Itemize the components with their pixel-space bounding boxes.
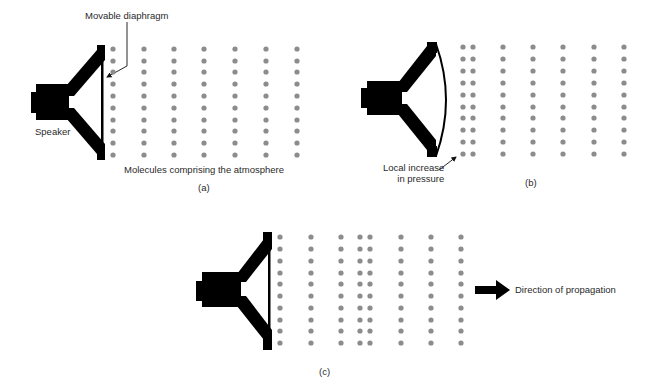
molecule-dot: [338, 234, 343, 239]
molecule-dot: [500, 115, 505, 120]
molecule-dot: [110, 140, 115, 145]
molecule-dot: [458, 281, 463, 286]
molecule-dot: [560, 151, 565, 156]
molecule-dot: [141, 46, 146, 51]
molecule-dot: [458, 234, 463, 239]
molecule-dot: [308, 234, 313, 239]
molecule-dot: [171, 152, 176, 157]
molecule-dot: [171, 69, 176, 74]
molecule-dot: [294, 69, 299, 74]
molecule-dot: [398, 246, 403, 251]
molecule-dot: [277, 258, 282, 263]
molecule-dot: [141, 105, 146, 110]
molecule-dot: [367, 258, 372, 263]
molecule-dot: [110, 152, 115, 157]
molecule-dot: [560, 104, 565, 109]
molecule-dot: [428, 328, 433, 333]
molecule-dot: [277, 234, 282, 239]
molecule-dot: [460, 127, 465, 132]
propagation-arrow-icon: [475, 280, 510, 300]
molecule-dot: [470, 80, 475, 85]
molecule-dot: [591, 151, 596, 156]
molecule-dot: [428, 305, 433, 310]
label-local-increase-line2: in pressure: [383, 173, 444, 184]
molecule-dot: [171, 46, 176, 51]
molecule-dot: [294, 117, 299, 122]
molecule-dot: [141, 140, 146, 145]
molecule-dot: [294, 81, 299, 86]
molecule-dot: [591, 80, 596, 85]
label-molecules: Molecules comprising the atmosphere: [124, 164, 284, 175]
molecule-dot: [367, 340, 372, 345]
molecule-dot: [141, 81, 146, 86]
molecule-dot: [171, 93, 176, 98]
molecule-dot: [621, 80, 626, 85]
molecule-dot: [428, 270, 433, 275]
molecule-dot: [530, 92, 535, 97]
molecule-dot: [398, 340, 403, 345]
molecule-dot: [398, 317, 403, 322]
molecule-dot: [338, 293, 343, 298]
molecule-dot: [294, 128, 299, 133]
molecule-dot: [530, 56, 535, 61]
molecule-dot: [591, 56, 596, 61]
molecule-dot: [232, 58, 237, 63]
molecule-dot: [560, 56, 565, 61]
molecule-dot: [263, 105, 268, 110]
molecule-dot: [232, 81, 237, 86]
molecule-dot: [357, 258, 362, 263]
molecule-dot: [263, 81, 268, 86]
label-local-increase: Local increase in pressure: [383, 162, 444, 184]
molecule-dot: [500, 44, 505, 49]
molecule-dot: [232, 117, 237, 122]
molecule-dot: [470, 151, 475, 156]
molecule-dot: [500, 127, 505, 132]
molecule-dot: [141, 128, 146, 133]
molecule-dot: [201, 117, 206, 122]
molecule-grid-c: [277, 234, 463, 345]
speaker-c-icon: [196, 232, 272, 350]
label-movable-diaphragm: Movable diaphragm: [85, 10, 168, 21]
molecule-dot: [201, 69, 206, 74]
molecule-dot: [398, 270, 403, 275]
molecule-dot: [277, 305, 282, 310]
molecule-dot: [560, 115, 565, 120]
molecule-dot: [621, 44, 626, 49]
molecule-dot: [141, 69, 146, 74]
molecule-dot: [277, 317, 282, 322]
molecule-dot: [110, 93, 115, 98]
molecule-dot: [308, 293, 313, 298]
molecule-dot: [560, 139, 565, 144]
molecule-dot: [357, 270, 362, 275]
molecule-dot: [530, 68, 535, 73]
molecule-dot: [263, 93, 268, 98]
molecule-dot: [470, 127, 475, 132]
molecule-dot: [232, 152, 237, 157]
molecule-dot: [110, 81, 115, 86]
caption-b: (b): [525, 177, 537, 188]
molecule-dot: [428, 317, 433, 322]
molecule-dot: [357, 328, 362, 333]
molecule-dot: [398, 258, 403, 263]
molecule-dot: [357, 246, 362, 251]
molecule-dot: [110, 58, 115, 63]
molecule-dot: [428, 234, 433, 239]
molecule-dot: [591, 68, 596, 73]
molecule-dot: [560, 80, 565, 85]
molecule-dot: [591, 44, 596, 49]
molecule-dot: [530, 44, 535, 49]
molecule-dot: [141, 117, 146, 122]
molecule-dot: [201, 140, 206, 145]
molecule-dot: [367, 293, 372, 298]
molecule-dot: [458, 246, 463, 251]
molecule-dot: [201, 128, 206, 133]
molecule-dot: [232, 128, 237, 133]
molecule-dot: [458, 270, 463, 275]
molecule-dot: [277, 328, 282, 333]
molecule-dot: [398, 234, 403, 239]
molecule-dot: [560, 68, 565, 73]
molecule-dot: [308, 270, 313, 275]
molecule-dot: [357, 305, 362, 310]
molecule-dot: [500, 151, 505, 156]
molecule-dot: [277, 270, 282, 275]
